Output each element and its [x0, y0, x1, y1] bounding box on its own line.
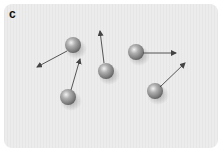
- particle: [37, 37, 87, 67]
- sphere-icon: [147, 83, 163, 99]
- velocity-arrow-icon: [100, 31, 104, 63]
- particle: [60, 59, 82, 111]
- particle-diagram: [0, 0, 224, 154]
- velocity-arrow-icon: [37, 51, 67, 67]
- particle: [128, 44, 176, 66]
- particle: [98, 31, 120, 85]
- sphere-icon: [60, 89, 76, 105]
- velocity-arrow-icon: [160, 63, 185, 87]
- sphere-icon: [128, 44, 144, 60]
- particle: [147, 63, 185, 105]
- sphere-icon: [65, 37, 81, 53]
- velocity-arrow-icon: [71, 59, 80, 90]
- sphere-icon: [98, 63, 114, 79]
